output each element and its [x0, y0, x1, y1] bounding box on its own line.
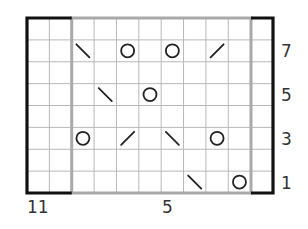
yarn-over-icon	[121, 44, 134, 57]
row-label-3: 3	[281, 131, 292, 148]
ssk-decrease-icon	[99, 88, 112, 101]
ssk-decrease-icon	[188, 176, 201, 189]
ssk-decrease-icon	[76, 44, 89, 57]
row-label-7: 7	[281, 43, 292, 60]
ssk-decrease-icon	[166, 132, 179, 145]
row-label-1: 1	[281, 175, 292, 192]
knitting-chart	[0, 0, 308, 229]
k2tog-decrease-icon	[211, 44, 224, 57]
k2tog-decrease-icon	[121, 132, 134, 145]
yarn-over-icon	[166, 44, 179, 57]
yarn-over-icon	[144, 88, 157, 101]
yarn-over-icon	[76, 132, 89, 145]
column-label-5: 5	[162, 199, 173, 216]
yarn-over-icon	[211, 132, 224, 145]
column-label-11: 11	[27, 199, 49, 216]
yarn-over-icon	[233, 176, 246, 189]
row-label-5: 5	[281, 87, 292, 104]
chart-grid	[27, 18, 273, 193]
